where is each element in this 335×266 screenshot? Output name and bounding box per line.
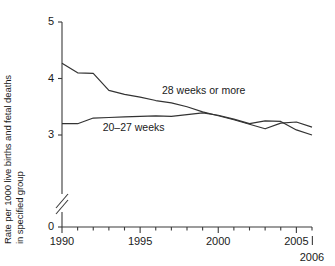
series-line [62, 113, 312, 135]
fetal-death-rate-line-chart: Rate per 1000 live births and fetal deat… [0, 0, 335, 266]
data-lines [62, 63, 312, 135]
axes [56, 22, 312, 245]
axis-break-mark-2 [56, 200, 68, 214]
series-line [62, 63, 312, 129]
axis-break-mark-1 [56, 194, 68, 208]
plot-area [0, 0, 335, 266]
